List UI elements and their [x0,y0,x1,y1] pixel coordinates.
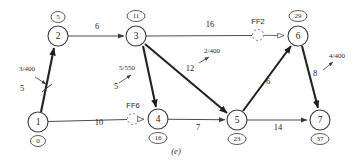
node-6-label: 6 [296,31,301,41]
node-3-badge-label: 11 [133,12,140,20]
node-7-badge: 37 [311,134,329,145]
dummy-activity-ff6: FF6 [126,101,144,125]
node-4-badge-label: 16 [155,134,163,142]
node-3[interactable]: 3 [126,26,146,46]
crash-annotation-6-7: 4/400 [323,52,345,70]
node-4[interactable]: 4 [148,109,168,129]
crash-label-6-7: 4/400 [329,52,345,60]
node-7[interactable]: 7 [310,110,330,130]
node-1-badge: 0 [31,136,46,147]
node-3-badge: 11 [127,11,145,22]
node-4-badge: 16 [149,133,167,144]
ff2-label: FF2 [251,17,264,26]
edge-label-3-5: 12 [186,63,195,73]
node-1[interactable]: 1 [28,112,48,132]
node-2-badge-label: 5 [56,13,60,21]
edge-5-6: 6 [243,46,291,111]
crash-annotation-3-5: 2/400 [199,47,220,63]
node-2-label: 2 [56,31,61,41]
network-diagram-canvas: 5 6 16 5 12 10 7 [0,0,360,163]
edge-label-6-7: 8 [313,68,317,78]
node-6[interactable]: 6 [288,26,308,46]
edge-label-5-7: 14 [274,122,283,132]
edge-label-1-4: 10 [95,117,104,127]
crash-annotation-3-4: 5/550 [119,64,135,83]
edge-3-6: 16 [146,19,252,36]
node-5-label: 5 [235,115,240,125]
node-6-badge: 29 [289,11,307,22]
crash-label-1-2: 3/400 [19,65,35,73]
node-6-badge-label: 29 [295,12,303,20]
edge-4-5: 7 [168,119,225,132]
node-2-badge: 5 [51,12,65,23]
crash-label-3-5: 2/400 [204,47,220,55]
edge-label-3-4: 5 [114,81,118,91]
edge-1-4: 10 [48,117,127,127]
crash-label-3-4: 5/550 [119,64,135,72]
ff2-dashed-circle [253,30,264,41]
ff6-label: FF6 [126,101,139,110]
node-1-badge-label: 0 [36,137,40,145]
edge-5-7: 14 [247,120,307,132]
ff6-dashed-circle [128,114,139,125]
edge-label-4-5: 7 [196,122,200,132]
node-7-label: 7 [318,115,323,125]
node-5[interactable]: 5 [227,110,247,130]
dummy-activity-ff2: FF2 [251,17,284,41]
edge-3-4: 5 [114,46,156,107]
node-5-badge-label: 23 [234,135,242,143]
figure-caption: (e) [171,146,181,156]
edge-2-3: 6 [68,21,124,36]
node-2[interactable]: 2 [48,26,68,46]
network-diagram: 5 6 16 5 12 10 7 [0,0,360,163]
edge-1-2: 5 [20,48,54,112]
node-3-label: 3 [134,31,139,41]
edge-label-1-2: 5 [20,83,24,93]
edge-label-3-6: 16 [206,19,215,29]
edge-label-2-3: 6 [95,21,99,31]
edge-6-7: 8 [302,46,318,108]
crash-annotation-1-2: 3/400 [19,65,46,84]
node-5-badge: 23 [228,134,246,145]
edge-label-5-6: 6 [266,76,270,86]
node-1-label: 1 [36,117,41,127]
node-7-badge-label: 37 [317,135,325,143]
node-4-label: 4 [156,114,161,124]
